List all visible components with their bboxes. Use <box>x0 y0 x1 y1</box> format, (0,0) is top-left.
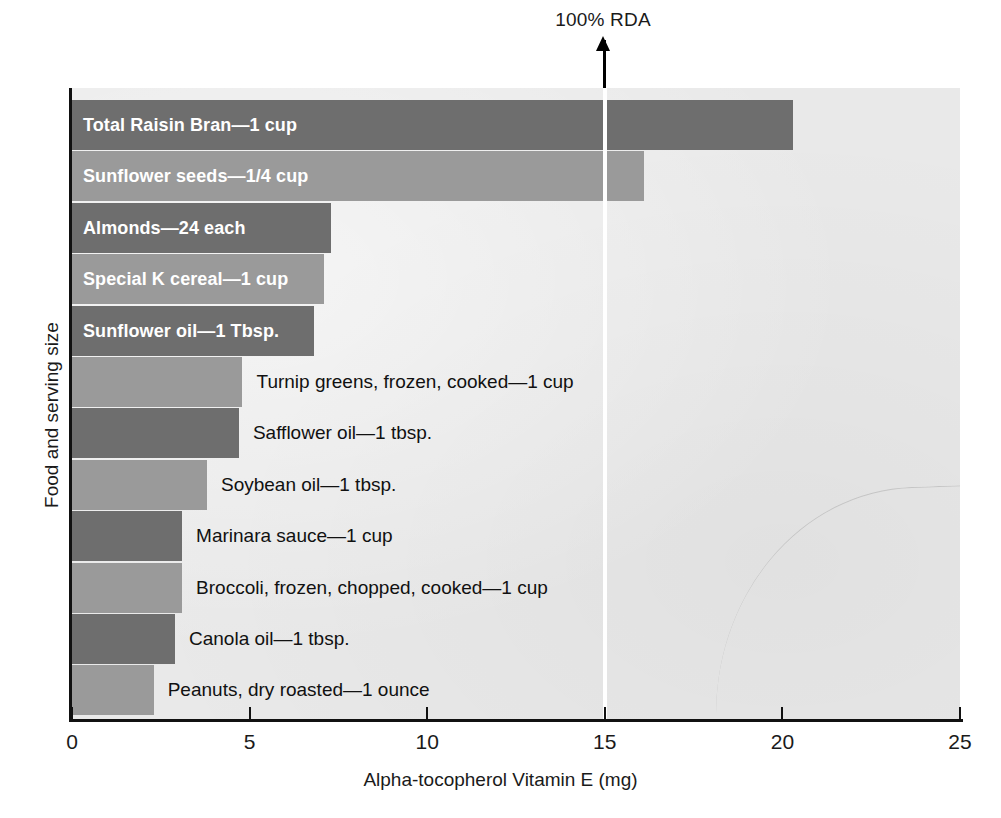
bar[interactable]: Total Raisin Bran—1 cup <box>72 100 793 150</box>
bar[interactable] <box>72 563 182 613</box>
y-axis-line <box>69 88 72 722</box>
bar-label: Safflower oil—1 tbsp. <box>253 422 432 444</box>
bar-label: Sunflower seeds—1/4 cup <box>83 166 308 187</box>
x-axis-tick-label: 15 <box>593 730 616 754</box>
x-axis-tick <box>71 707 73 720</box>
x-axis-line <box>69 719 963 722</box>
bar[interactable] <box>72 614 175 664</box>
rda-annotation: 100% RDA <box>503 8 703 32</box>
x-axis-tick-label: 5 <box>244 730 256 754</box>
bar[interactable]: Sunflower oil—1 Tbsp. <box>72 306 314 356</box>
bar[interactable] <box>72 460 207 510</box>
bar[interactable] <box>72 511 182 561</box>
scan-artifact-crease <box>708 482 960 720</box>
bar-label: Almonds—24 each <box>83 217 246 238</box>
x-axis-tick-label: 10 <box>416 730 439 754</box>
x-axis-tick-label: 0 <box>66 730 78 754</box>
bar-label: Peanuts, dry roasted—1 ounce <box>168 679 430 701</box>
bar-label: Canola oil—1 tbsp. <box>189 628 350 650</box>
x-axis-tick <box>604 707 606 720</box>
x-axis-tick-label: 25 <box>948 730 971 754</box>
bar[interactable]: Special K cereal—1 cup <box>72 254 324 304</box>
x-axis-tick <box>959 707 961 720</box>
bar[interactable]: Sunflower seeds—1/4 cup <box>72 151 644 201</box>
bar[interactable] <box>72 357 242 407</box>
bar-label: Turnip greens, frozen, cooked—1 cup <box>256 371 573 393</box>
bar-label: Broccoli, frozen, chopped, cooked—1 cup <box>196 577 548 599</box>
bar-label: Marinara sauce—1 cup <box>196 525 392 547</box>
x-axis-tick <box>249 707 251 720</box>
bar-label: Total Raisin Bran—1 cup <box>83 115 297 136</box>
x-axis-tick <box>781 707 783 720</box>
y-axis-title: Food and serving size <box>41 95 63 735</box>
bar[interactable] <box>72 408 239 458</box>
x-axis-title: Alpha-tocopherol Vitamin E (mg) <box>0 769 1001 791</box>
bar[interactable]: Almonds—24 each <box>72 203 331 253</box>
bar-label: Soybean oil—1 tbsp. <box>221 474 396 496</box>
bar-label: Sunflower oil—1 Tbsp. <box>83 320 279 341</box>
rda-reference-line <box>603 88 607 720</box>
x-axis-tick <box>426 707 428 720</box>
x-axis-tick-label: 20 <box>771 730 794 754</box>
bar-label: Special K cereal—1 cup <box>83 269 288 290</box>
plot-area: Total Raisin Bran—1 cupSunflower seeds—1… <box>72 88 960 720</box>
vitamin-e-bar-chart: 100% RDA Total Raisin Bran—1 cupSunflowe… <box>0 0 1001 818</box>
rda-label: 100% RDA <box>503 8 703 32</box>
bar[interactable] <box>72 665 154 715</box>
